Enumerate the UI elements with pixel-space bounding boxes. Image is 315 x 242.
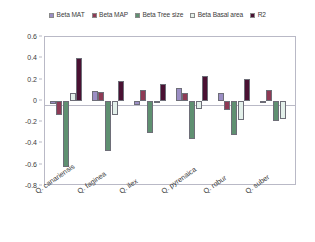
y-axis-tick-label: 0.2: [27, 75, 37, 82]
plot-area: [44, 36, 296, 185]
legend-item[interactable]: R2: [250, 11, 266, 19]
y-axis-tick-label: -0.2: [25, 118, 37, 125]
legend-swatch-icon: [135, 13, 140, 18]
legend-item[interactable]: Beta Tree size: [135, 11, 183, 19]
y-axis-tick-mark: [39, 36, 42, 37]
bar[interactable]: [112, 101, 118, 115]
y-axis-tick-mark: [39, 78, 42, 79]
y-axis: 0.60.40.20-0.2-0.4-0.6-0.8: [0, 36, 42, 185]
legend-item-label: R2: [258, 11, 266, 19]
bar-chart: Beta MATBeta MAPBeta Tree sizeBeta Basal…: [0, 0, 315, 242]
bar[interactable]: [92, 91, 98, 101]
bar[interactable]: [63, 101, 69, 167]
y-axis-tick-label: 0.6: [27, 33, 37, 40]
bar[interactable]: [218, 93, 224, 100]
bar-group: [171, 37, 213, 184]
bar[interactable]: [56, 101, 62, 115]
bar-series-container: [45, 37, 295, 184]
bar[interactable]: [118, 81, 124, 101]
bar[interactable]: [266, 90, 272, 101]
bar[interactable]: [176, 88, 182, 101]
bar[interactable]: [140, 90, 146, 101]
bar-group: [213, 37, 255, 184]
legend-item-label: Beta Tree size: [143, 11, 184, 19]
bar[interactable]: [244, 79, 250, 101]
bar[interactable]: [147, 101, 153, 133]
bar[interactable]: [280, 101, 286, 119]
legend-item[interactable]: Beta MAT: [49, 11, 85, 19]
bar[interactable]: [70, 93, 76, 100]
bar[interactable]: [273, 101, 279, 121]
y-axis-tick-mark: [39, 121, 42, 122]
y-axis-tick-mark: [39, 163, 42, 164]
legend-item[interactable]: Beta Basal area: [190, 11, 243, 19]
bar[interactable]: [105, 101, 111, 151]
bar[interactable]: [238, 101, 244, 120]
y-axis-tick-label: -0.4: [25, 139, 37, 146]
bar[interactable]: [196, 101, 202, 110]
y-axis-tick-mark: [39, 142, 42, 143]
legend-item-label: Beta Basal area: [198, 11, 243, 19]
legend-item-label: Beta MAP: [99, 11, 128, 19]
y-axis-tick-mark: [39, 99, 42, 100]
bar[interactable]: [182, 93, 188, 100]
legend-item[interactable]: Beta MAP: [92, 11, 128, 19]
y-axis-tick-label: -0.6: [25, 160, 37, 167]
y-axis-tick-label: 0.4: [27, 54, 37, 61]
bar-group: [87, 37, 129, 184]
y-axis-tick-mark: [39, 185, 42, 186]
legend-swatch-icon: [250, 13, 255, 18]
bar-group: [129, 37, 171, 184]
bar[interactable]: [260, 101, 266, 103]
legend-item-label: Beta MAT: [57, 11, 85, 19]
legend-swatch-icon: [92, 13, 97, 18]
bar[interactable]: [189, 101, 195, 139]
bar-group: [45, 37, 87, 184]
y-axis-tick-mark: [39, 57, 42, 58]
bar[interactable]: [50, 101, 56, 104]
y-axis-tick-label: 0: [33, 96, 37, 103]
bar[interactable]: [160, 84, 166, 101]
legend-swatch-icon: [49, 13, 54, 18]
bar-group: [255, 37, 297, 184]
bar[interactable]: [224, 101, 230, 111]
legend-swatch-icon: [190, 13, 195, 18]
bar[interactable]: [76, 58, 82, 101]
bar[interactable]: [98, 92, 104, 101]
bar[interactable]: [154, 101, 160, 103]
bar[interactable]: [134, 101, 140, 105]
y-axis-tick-label: -0.8: [25, 182, 37, 189]
bar[interactable]: [231, 101, 237, 135]
bar[interactable]: [202, 76, 208, 100]
chart-legend: Beta MATBeta MAPBeta Tree sizeBeta Basal…: [0, 11, 315, 19]
